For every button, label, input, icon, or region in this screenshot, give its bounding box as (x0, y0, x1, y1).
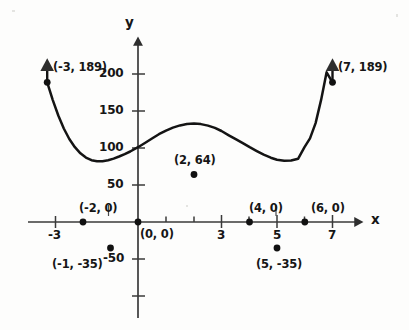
point-0-0 (135, 219, 142, 226)
point-label-5-neg35: (5, -35) (256, 259, 302, 271)
x-tick-3: 3 (217, 229, 225, 241)
point-4-0 (246, 219, 253, 226)
x-tick-5: 5 (273, 229, 281, 241)
y-tick-150: 150 (99, 104, 123, 116)
y-tick-50: 50 (107, 178, 123, 190)
scan-speckle (186, 205, 188, 207)
point-label-4-0: (4, 0) (249, 203, 283, 215)
y-tick-neg50: -50 (103, 252, 124, 264)
point-label-neg1-neg35: (-1, -35) (52, 259, 103, 271)
y-tick-100: 100 (99, 141, 123, 153)
scan-speckle (396, 14, 398, 17)
point-label-neg2-0: (-2, 0) (79, 203, 117, 215)
point-label-7-189: (7, 189) (338, 62, 387, 74)
x-tick-7: 7 (328, 229, 336, 241)
point-label-0-0: (0, 0) (140, 229, 174, 241)
point-label-neg3-189: (-3, 189) (53, 62, 107, 74)
point-label-6-0: (6, 0) (311, 203, 345, 215)
graph-figure: y x 200 150 100 50 -50 -3 3 5 7 (-3, 189… (0, 0, 409, 330)
point-neg3-189 (44, 79, 51, 86)
point-neg2-0 (80, 219, 87, 226)
x-tick-neg3: -3 (48, 229, 61, 241)
point-7-189 (329, 79, 336, 86)
point-label-2-64: (2, 64) (174, 155, 216, 167)
point-5-35 (274, 245, 281, 252)
curve-quartic (47, 72, 332, 161)
x-axis-label: x (371, 213, 380, 227)
y-axis-label: y (125, 16, 134, 30)
scan-speckle (12, 10, 15, 12)
point-2-64 (191, 171, 198, 178)
point-6-0 (301, 219, 308, 226)
